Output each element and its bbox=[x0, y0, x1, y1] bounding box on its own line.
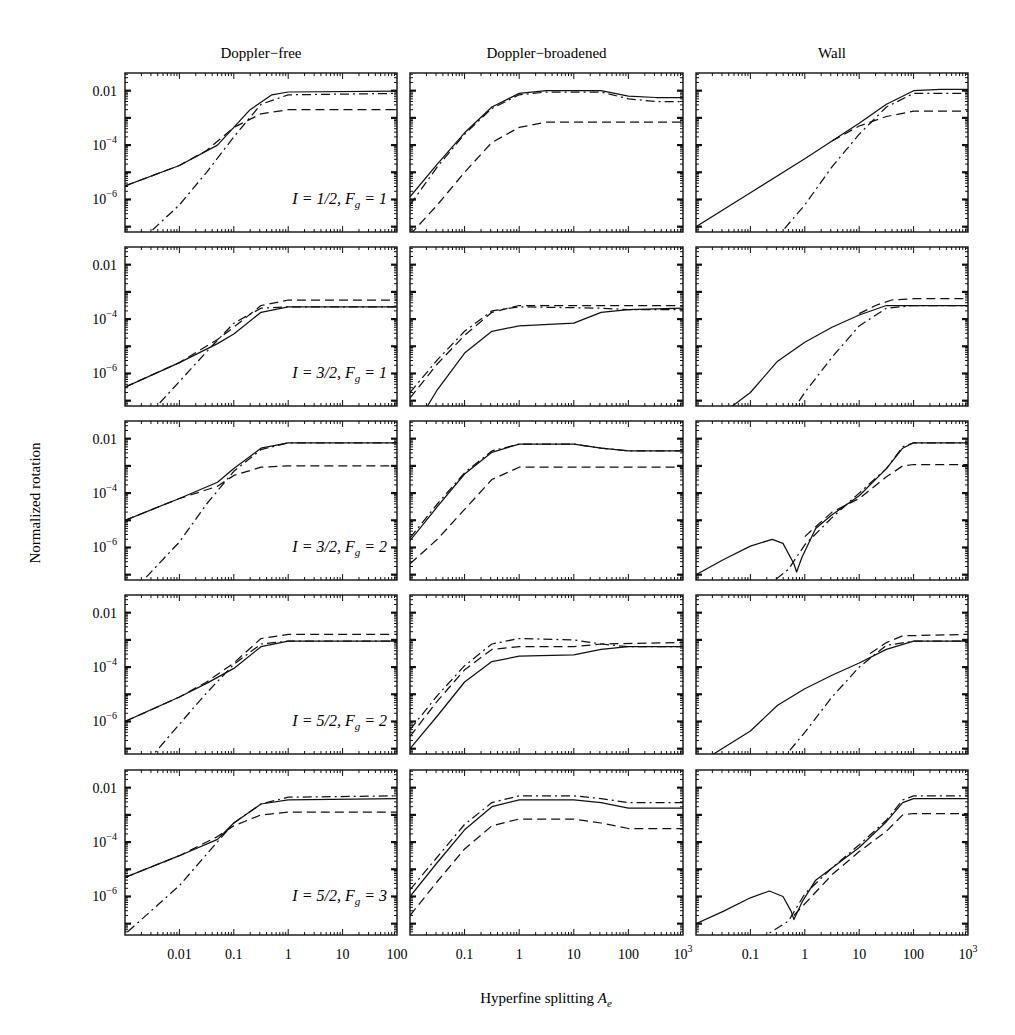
curve-solid bbox=[410, 444, 683, 541]
panel-frame bbox=[410, 770, 683, 935]
x-tick-label: 10 bbox=[336, 947, 350, 962]
column-title: Doppler−free bbox=[221, 45, 302, 61]
panel-r4-c2 bbox=[410, 595, 683, 754]
y-tick-label: 10−4 bbox=[92, 308, 117, 327]
curve-dashdot bbox=[147, 641, 397, 762]
x-tick-label: 100 bbox=[387, 947, 408, 962]
curve-dashdot bbox=[778, 641, 968, 765]
curve-dashed bbox=[410, 122, 683, 235]
y-tick-label: 10−6 bbox=[92, 188, 117, 207]
panel-annotation: I = 5/2, Fg = 3 bbox=[291, 887, 387, 907]
x-tick-label: 0.01 bbox=[167, 947, 192, 962]
curve-dashdot bbox=[128, 796, 397, 932]
panel-r4-c3 bbox=[696, 595, 968, 765]
curve-dashed bbox=[410, 819, 683, 916]
y-axis-label: Normalized rotation bbox=[27, 442, 43, 564]
x-tick-label: 1 bbox=[516, 947, 523, 962]
panel-r4-c1: 0.0110−410−6I = 5/2, Fg = 2 bbox=[92, 595, 397, 762]
curve-solid bbox=[125, 91, 397, 186]
panel-frame bbox=[410, 595, 683, 754]
x-tick-label: 100 bbox=[903, 947, 924, 962]
curve-solid bbox=[696, 443, 968, 575]
curve-solid bbox=[696, 799, 968, 924]
y-tick-label: 10−6 bbox=[92, 885, 117, 904]
figure-canvas: Doppler−freeDoppler−broadenedWallNormali… bbox=[0, 0, 1015, 1035]
x-tick-label: 1 bbox=[285, 947, 292, 962]
curve-dashed bbox=[832, 111, 968, 141]
curve-dashdot bbox=[139, 93, 397, 243]
curve-dashed bbox=[125, 466, 397, 520]
y-tick-label: 10−6 bbox=[92, 536, 117, 555]
y-tick-label: 10−6 bbox=[92, 362, 117, 381]
panel-frame bbox=[410, 421, 683, 580]
panel-r2-c3 bbox=[696, 247, 968, 417]
panel-frame bbox=[696, 73, 968, 232]
y-tick-label: 10−4 bbox=[92, 134, 117, 153]
x-tick-label: 103 bbox=[674, 943, 693, 962]
column-title: Doppler−broadened bbox=[486, 45, 607, 61]
panel-frame bbox=[696, 247, 968, 406]
panel-frame bbox=[410, 247, 683, 406]
panel-r3-c2 bbox=[410, 421, 683, 580]
curve-dashed bbox=[410, 467, 683, 564]
column-title: Wall bbox=[818, 45, 846, 61]
panel-r3-c1: 0.0110−410−6I = 3/2, Fg = 2 bbox=[92, 421, 397, 591]
panel-r5-c1: 0.0110−410−6I = 5/2, Fg = 30.010.1110100 bbox=[92, 770, 407, 962]
y-tick-label: 10−4 bbox=[92, 831, 117, 850]
curve-solid bbox=[696, 641, 968, 765]
panel-r2-c2 bbox=[410, 247, 683, 417]
curve-solid bbox=[410, 800, 683, 897]
x-tick-label: 100 bbox=[618, 947, 639, 962]
curve-dashdot bbox=[410, 796, 683, 890]
x-tick-label: 10 bbox=[567, 947, 581, 962]
curve-solid bbox=[125, 443, 397, 521]
y-tick-label: 0.01 bbox=[93, 606, 118, 621]
y-tick-label: 0.01 bbox=[93, 84, 118, 99]
panel-frame bbox=[696, 421, 968, 580]
panel-r5-c2: 0.1110100103 bbox=[410, 770, 693, 962]
panel-annotation: I = 5/2, Fg = 2 bbox=[291, 712, 387, 732]
x-tick-label: 0.1 bbox=[456, 947, 474, 962]
x-tick-label: 10 bbox=[852, 947, 866, 962]
curve-dashdot bbox=[789, 306, 969, 418]
curve-solid bbox=[410, 647, 683, 749]
panel-r3-c3 bbox=[696, 421, 968, 591]
curve-solid bbox=[410, 91, 683, 197]
panel-frame bbox=[125, 770, 397, 935]
x-tick-label: 0.1 bbox=[742, 947, 760, 962]
curve-solid bbox=[125, 641, 397, 721]
curve-dashdot bbox=[147, 307, 397, 417]
y-tick-label: 10−4 bbox=[92, 656, 117, 675]
y-tick-label: 0.01 bbox=[93, 781, 118, 796]
curve-dashed bbox=[859, 299, 968, 314]
y-tick-label: 0.01 bbox=[93, 258, 118, 273]
curve-dashed bbox=[410, 306, 683, 399]
curve-dashed bbox=[410, 643, 683, 737]
panel-frame bbox=[696, 770, 968, 935]
x-tick-label: 0.1 bbox=[225, 947, 243, 962]
panel-annotation: I = 1/2, Fg = 1 bbox=[291, 190, 387, 210]
y-tick-label: 0.01 bbox=[93, 432, 118, 447]
panel-annotation: I = 3/2, Fg = 1 bbox=[291, 364, 387, 384]
panel-r5-c3: 0.1110100103 bbox=[696, 770, 978, 962]
y-tick-label: 10−6 bbox=[92, 710, 117, 729]
curve-dashdot bbox=[133, 443, 397, 591]
curve-dashed bbox=[125, 110, 397, 186]
panel-annotation: I = 3/2, Fg = 2 bbox=[291, 538, 387, 558]
panel-r1-c3 bbox=[696, 73, 968, 243]
curve-dashed bbox=[125, 812, 397, 877]
panel-r1-c1: 0.0110−410−6I = 1/2, Fg = 1 bbox=[92, 73, 397, 243]
panel-frame bbox=[696, 595, 968, 754]
curve-dashdot bbox=[410, 639, 683, 730]
curve-dashed bbox=[794, 814, 968, 916]
x-axis-label: Hyperfine splitting Ae bbox=[480, 990, 612, 1009]
curve-solid bbox=[718, 306, 968, 418]
panel-r1-c2 bbox=[410, 73, 683, 235]
curve-dashdot bbox=[759, 796, 968, 940]
y-tick-label: 10−4 bbox=[92, 482, 117, 501]
curve-dashed bbox=[805, 465, 968, 537]
x-tick-label: 103 bbox=[959, 943, 978, 962]
panel-r2-c1: 0.0110−410−6I = 3/2, Fg = 1 bbox=[92, 247, 397, 417]
curve-solid bbox=[421, 308, 683, 417]
curve-solid bbox=[696, 89, 968, 226]
